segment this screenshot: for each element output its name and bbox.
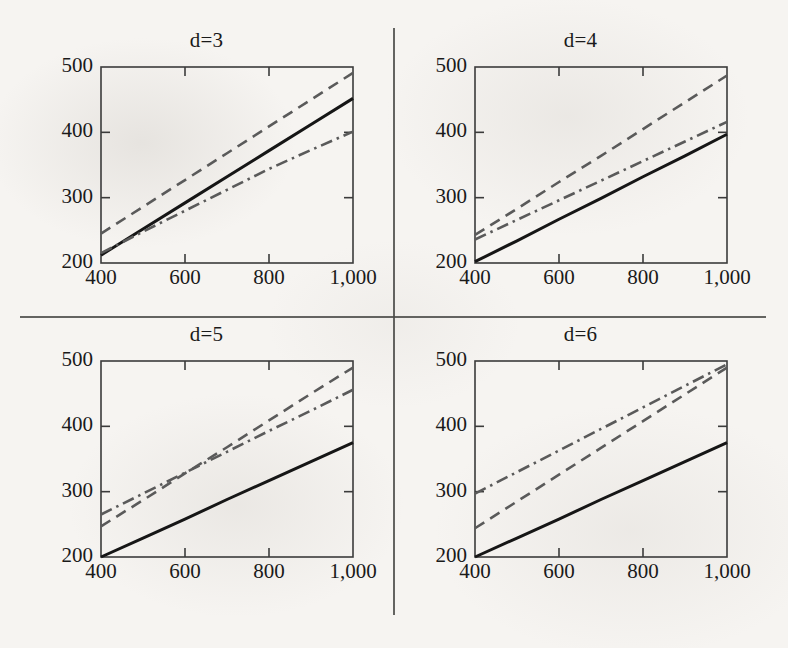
- x-tick-label: 400: [435, 559, 515, 584]
- x-tick-label: 800: [603, 265, 683, 290]
- y-tick-label: 300: [399, 478, 467, 503]
- plot-area: 2003004005004006008001,000: [20, 322, 393, 610]
- plot-frame: [475, 67, 727, 263]
- x-tick-label: 1,000: [313, 265, 393, 290]
- x-tick-label: 600: [519, 265, 599, 290]
- panel-d6: d=6 2003004005004006008001,000: [394, 322, 767, 610]
- y-tick-label: 500: [399, 53, 467, 78]
- plot-area: 2003004005004006008001,000: [394, 322, 767, 610]
- x-tick-label: 1,000: [687, 265, 767, 290]
- panel-d4: d=4 2003004005004006008001,000: [394, 28, 767, 316]
- series-line-solid: [101, 98, 353, 255]
- series-line-dash-dot: [101, 390, 353, 515]
- y-tick-label: 400: [399, 412, 467, 437]
- x-tick-label: 400: [435, 265, 515, 290]
- x-tick-label: 400: [61, 265, 141, 290]
- series-line-solid: [475, 134, 727, 261]
- x-tick-label: 600: [145, 559, 225, 584]
- series-line-dash-dot: [475, 122, 727, 240]
- y-tick-label: 500: [399, 347, 467, 372]
- figure-page: d=3 2003004005004006008001,000 d=4 20030…: [0, 0, 788, 648]
- y-tick-label: 500: [25, 347, 93, 372]
- series-line-dash-dot: [475, 364, 727, 493]
- x-tick-label: 800: [603, 559, 683, 584]
- plot-area: 2003004005004006008001,000: [20, 28, 393, 316]
- x-tick-label: 400: [61, 559, 141, 584]
- series-line-dashed: [475, 368, 727, 529]
- y-tick-label: 300: [25, 478, 93, 503]
- series-line-dashed: [101, 73, 353, 234]
- y-tick-label: 400: [25, 412, 93, 437]
- x-tick-label: 600: [519, 559, 599, 584]
- plot-area: 2003004005004006008001,000: [394, 28, 767, 316]
- x-tick-label: 800: [229, 559, 309, 584]
- panel-d5: d=5 2003004005004006008001,000: [20, 322, 393, 610]
- x-tick-label: 800: [229, 265, 309, 290]
- x-tick-label: 1,000: [687, 559, 767, 584]
- y-tick-label: 500: [25, 53, 93, 78]
- y-tick-label: 400: [399, 118, 467, 143]
- series-line-dashed: [101, 368, 353, 527]
- x-tick-label: 600: [145, 265, 225, 290]
- y-tick-label: 400: [25, 118, 93, 143]
- y-tick-label: 300: [25, 184, 93, 209]
- panel-d3: d=3 2003004005004006008001,000: [20, 28, 393, 316]
- series-line-solid: [475, 443, 727, 557]
- y-tick-label: 300: [399, 184, 467, 209]
- series-line-dash-dot: [101, 132, 353, 254]
- series-line-solid: [101, 443, 353, 557]
- x-tick-label: 1,000: [313, 559, 393, 584]
- horizontal-divider: [20, 316, 766, 318]
